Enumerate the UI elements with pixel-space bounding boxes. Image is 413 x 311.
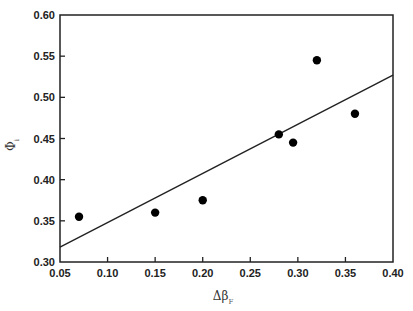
y-axis-label: Φi: [4, 138, 21, 151]
x-tick-label: 0.10: [97, 267, 118, 279]
data-point: [351, 110, 359, 118]
y-tick-label: 0.45: [34, 133, 55, 145]
y-tick-label: 0.30: [34, 256, 55, 268]
y-tick-label: 0.40: [34, 174, 55, 186]
plot-border: [60, 15, 393, 262]
y-tick-label: 0.35: [34, 215, 55, 227]
x-tick-label: 0.30: [287, 267, 308, 279]
x-tick-label: 0.40: [382, 267, 403, 279]
scatter-chart: 0.050.100.150.200.250.300.350.40 0.300.3…: [0, 0, 413, 311]
regression-line: [60, 75, 393, 247]
data-point: [313, 56, 321, 64]
x-tick-label: 0.25: [240, 267, 261, 279]
x-tick-label: 0.05: [49, 267, 70, 279]
fit-line: [60, 75, 393, 247]
x-tick-label: 0.15: [144, 267, 165, 279]
data-point: [75, 213, 83, 221]
data-point: [289, 138, 297, 146]
data-point: [199, 196, 207, 204]
y-tick-label: 0.60: [34, 9, 55, 21]
x-tick-label: 0.35: [335, 267, 356, 279]
data-point: [151, 208, 159, 216]
x-tick-label: 0.20: [192, 267, 213, 279]
x-axis-label: ΔβF: [213, 289, 234, 306]
data-points: [75, 56, 359, 221]
x-axis-ticks: 0.050.100.150.200.250.300.350.40: [49, 257, 403, 279]
plot-frame: [60, 15, 393, 262]
data-point: [275, 130, 283, 138]
y-tick-label: 0.50: [34, 91, 55, 103]
y-tick-label: 0.55: [34, 50, 55, 62]
